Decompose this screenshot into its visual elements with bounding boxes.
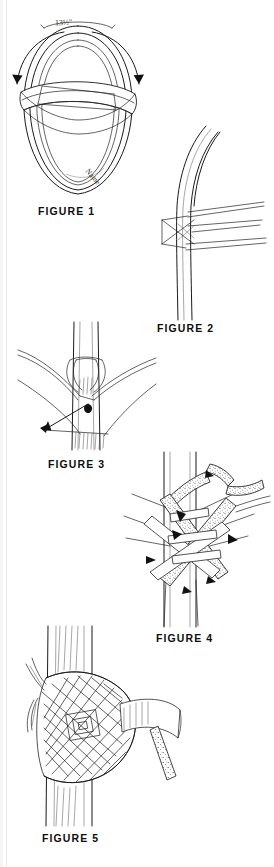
figure-5-caption: FIGURE 5 [42,832,99,844]
figure-2-caption: FIGURE 2 [157,322,214,334]
figure-5-illustration [12,626,182,826]
document-page: 13½" Name FIGURE 1 [0,0,274,867]
figure-1-caption: FIGURE 1 [38,205,95,217]
page-gutter-line [6,0,7,867]
figure-1-length-annotation: 13½" [55,18,73,28]
figure-3-caption: FIGURE 3 [48,458,105,470]
figure-1-illustration [8,14,148,204]
figure-3-illustration [18,322,158,452]
page-gutter-shadow [0,0,3,867]
figure-4-illustration [124,452,270,627]
figure-2-illustration [148,120,268,320]
